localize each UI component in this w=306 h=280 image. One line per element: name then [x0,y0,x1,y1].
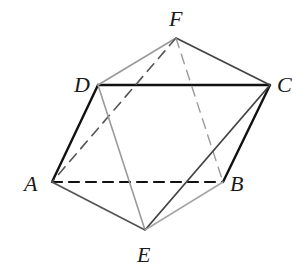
polyhedron-drawing [0,0,306,280]
edge-fd [98,38,176,85]
edge-fa [52,38,176,182]
vertex-label-d: D [74,74,90,96]
edge-ce [145,85,270,230]
edge-fc [176,38,270,85]
edge-be [145,182,223,230]
vertex-label-e: E [137,244,150,266]
geometry-diagram: F D C A B E [0,0,306,280]
vertex-label-f: F [169,8,182,30]
edge-da [52,85,98,182]
vertex-label-c: C [277,74,292,96]
edge-de [98,85,145,230]
vertex-label-a: A [24,173,37,195]
edge-fb [176,38,223,182]
edge-cb [223,85,270,182]
vertex-label-b: B [230,173,243,195]
